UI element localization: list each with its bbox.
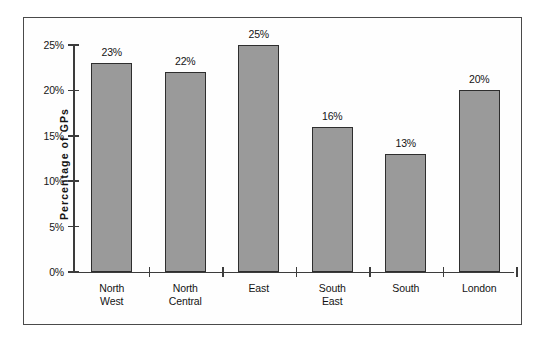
y-axis-tick [68,135,79,137]
y-axis-tick-label: 25% [22,39,64,51]
y-axis-tick-label: 5% [22,221,64,233]
bar-chart: Percentage of GPs 0%5%10%15%20%25% 23%22… [0,0,547,345]
x-axis-category-label-line: Central [137,295,233,308]
bar [459,90,500,272]
bar [312,127,353,272]
x-axis-category-label-line: East [284,295,380,308]
y-axis-tick-label: 15% [22,130,64,142]
y-axis-tick-label: 10% [22,175,64,187]
bar-value-label: 13% [396,137,416,149]
bar-value-label: 22% [175,55,195,67]
bar-value-label: 23% [102,46,122,58]
x-axis-tick [516,267,518,277]
x-axis-category-label: London [431,282,527,295]
y-axis-tick [68,90,79,92]
bar-value-label: 25% [249,28,269,40]
bar [385,154,426,272]
bar-value-label: 16% [322,110,342,122]
y-axis-tick [68,226,79,228]
y-axis-tick [68,271,79,273]
y-axis-line [73,44,75,273]
x-axis-category-label-line: London [431,282,527,295]
x-axis-tick [149,267,151,277]
x-axis-tick [369,267,371,277]
x-axis-line [73,272,514,274]
y-axis-tick-label: 20% [22,84,64,96]
y-axis-tick [68,180,79,182]
x-axis-tick [222,267,224,277]
x-axis-tick [296,267,298,277]
x-axis-tick [443,267,445,277]
bar [91,63,132,272]
bar [165,72,206,272]
bar [238,45,279,272]
y-axis-tick-label: 0% [22,266,64,278]
y-axis-tick [68,44,79,46]
bar-value-label: 20% [469,73,489,85]
